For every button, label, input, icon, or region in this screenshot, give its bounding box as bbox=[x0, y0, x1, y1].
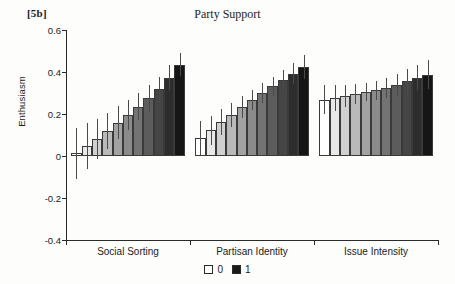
bar bbox=[174, 65, 184, 156]
y-tick-label: 0.4 bbox=[48, 67, 61, 78]
error-bar bbox=[211, 116, 212, 145]
group-label-social-sorting: Social Sorting bbox=[66, 246, 190, 257]
error-bar bbox=[283, 70, 284, 90]
bar bbox=[267, 86, 277, 156]
bar bbox=[371, 90, 381, 156]
bar bbox=[361, 92, 371, 156]
error-bar bbox=[407, 69, 408, 93]
y-tick-mark bbox=[62, 114, 66, 115]
error-bar bbox=[149, 85, 150, 110]
x-axis-group-tick bbox=[314, 240, 315, 245]
legend-item: 0 bbox=[204, 264, 223, 275]
legend-item: 1 bbox=[232, 264, 251, 275]
figure: [5b] Party Support Enthusiasm 0.60.40.20… bbox=[0, 0, 455, 284]
error-bar bbox=[180, 53, 181, 77]
x-axis-group-tick bbox=[190, 240, 191, 245]
y-tick-mark bbox=[62, 198, 66, 199]
y-tick-mark bbox=[62, 72, 66, 73]
plot-area bbox=[66, 30, 438, 240]
error-bar bbox=[200, 121, 201, 155]
error-bar bbox=[97, 119, 98, 159]
legend-swatch bbox=[204, 265, 213, 274]
error-bar bbox=[87, 123, 88, 169]
y-axis-label: Enthusiasm bbox=[16, 57, 27, 147]
y-tick-label: -0.2 bbox=[45, 193, 61, 204]
error-bar bbox=[107, 113, 108, 149]
error-bar bbox=[231, 103, 232, 127]
legend-swatch bbox=[232, 265, 241, 274]
bar bbox=[298, 67, 308, 156]
y-tick-label: 0.6 bbox=[48, 25, 61, 36]
error-bar bbox=[417, 65, 418, 90]
error-bar bbox=[76, 128, 77, 178]
x-axis-line bbox=[66, 240, 438, 241]
y-tick-label: -0.4 bbox=[45, 235, 61, 246]
error-bar bbox=[335, 85, 336, 111]
error-bar bbox=[138, 93, 139, 119]
error-bar bbox=[273, 77, 274, 96]
error-bar bbox=[355, 84, 356, 104]
error-bar bbox=[293, 63, 294, 84]
bar bbox=[278, 80, 288, 156]
error-bar bbox=[159, 77, 160, 102]
legend-label: 1 bbox=[245, 264, 251, 275]
error-bar bbox=[345, 85, 346, 108]
legend-label: 0 bbox=[217, 264, 223, 275]
error-bar bbox=[252, 90, 253, 110]
y-tick-label: 0.2 bbox=[48, 109, 61, 120]
error-bar bbox=[169, 65, 170, 90]
chart-title: Party Support bbox=[0, 7, 455, 22]
error-bar bbox=[386, 78, 387, 98]
error-bar bbox=[324, 85, 325, 114]
error-bar bbox=[366, 83, 367, 101]
error-bar bbox=[376, 81, 377, 99]
error-bar bbox=[262, 83, 263, 102]
error-bar bbox=[242, 96, 243, 118]
y-tick-mark bbox=[62, 30, 66, 31]
legend: 01 bbox=[0, 264, 455, 275]
x-axis-end-tick bbox=[438, 240, 439, 245]
group-label-partisan-identity: Partisan Identity bbox=[190, 246, 314, 257]
group-label-issue-intensity: Issue Intensity bbox=[314, 246, 438, 257]
error-bar bbox=[118, 106, 119, 139]
y-tick-label: 0 bbox=[56, 151, 61, 162]
error-bar bbox=[128, 100, 129, 129]
error-bar bbox=[221, 109, 222, 135]
bar bbox=[288, 74, 298, 156]
error-bar bbox=[304, 55, 305, 79]
error-bar bbox=[397, 74, 398, 96]
x-axis-end-tick bbox=[66, 240, 67, 245]
y-tick-mark bbox=[62, 156, 66, 157]
error-bar bbox=[428, 60, 429, 89]
bar bbox=[381, 88, 391, 156]
